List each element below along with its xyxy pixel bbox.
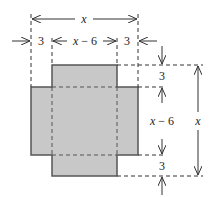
dimension-top-total: x (32, 12, 137, 26)
dimension-right-total: x (194, 66, 201, 175)
label-right-bottom-cut: 3 (159, 159, 165, 173)
dimension-top-segments: 3 x − 6 3 (12, 34, 157, 48)
label-right-total: x (194, 114, 201, 128)
label-right-middle: x − 6 (149, 114, 174, 128)
cross-shape (31, 65, 138, 176)
label-right-top-cut: 3 (159, 69, 165, 83)
open-box-net-diagram: x 3 x − 6 3 3 x − 6 3 x (0, 0, 219, 197)
dimension-right-segments: 3 x − 6 3 (149, 46, 174, 195)
label-top-right-cut: 3 (124, 34, 130, 48)
label-top-left-cut: 3 (38, 34, 44, 48)
label-top-total: x (80, 12, 87, 26)
label-top-middle: x − 6 (72, 34, 97, 48)
